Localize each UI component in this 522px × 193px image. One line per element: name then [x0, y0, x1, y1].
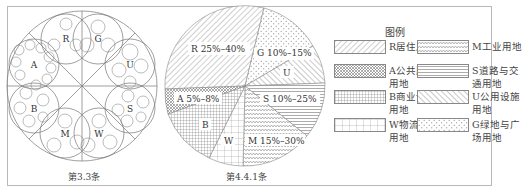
- sector-label-g: G: [94, 34, 101, 44]
- legend-item-s: S道路与交通用地: [417, 64, 522, 90]
- swatch-horizontal-icon: [417, 64, 469, 78]
- swatch-grid-coarse-icon: [334, 118, 386, 132]
- sector-label-w: W: [94, 129, 104, 139]
- legend-item-g: G绿地与广场用地: [417, 118, 522, 144]
- legend-item-u: U公用设施用地: [417, 90, 522, 116]
- sector-label-a: A: [30, 60, 38, 70]
- sector-label-b: B: [31, 104, 38, 114]
- legend-item-m: M工业用地: [417, 40, 522, 54]
- pie-label-b: B: [202, 120, 209, 130]
- left-caption: 第3.3条: [68, 170, 100, 183]
- swatch-grid-fine-icon: [334, 90, 386, 104]
- legend-label: S道路与交通用地: [472, 64, 522, 90]
- sector-label-u: U: [126, 60, 134, 70]
- pie-label-u: U: [283, 68, 291, 78]
- pie-label-m: M 15%–30%: [248, 136, 305, 146]
- swatch-zigzag-icon: [417, 40, 469, 54]
- swatch-diag-right-icon: [334, 40, 386, 54]
- pie-caption: 第4.4.1条: [226, 170, 267, 183]
- legend-title: 图例: [385, 24, 405, 39]
- swatch-crosshatch-icon: [334, 64, 386, 78]
- swatch-diag-left-icon: [417, 90, 469, 104]
- classification-diagram: R G U S W M B A: [7, 11, 157, 161]
- swatch-dots-icon: [417, 118, 469, 132]
- legend-label: M工业用地: [472, 40, 522, 53]
- pie-label-w: W: [224, 136, 234, 146]
- pie-label-a: A 5%–8%: [176, 94, 220, 104]
- legend-label: G绿地与广场用地: [472, 118, 522, 144]
- sector-label-r: R: [63, 34, 70, 44]
- pie-label-r: R 25%–40%: [191, 44, 246, 54]
- sector-label-s: S: [127, 104, 133, 114]
- sector-label-m: M: [60, 129, 69, 139]
- pie-label-s: S 10%–25%: [263, 94, 317, 104]
- pie-label-g: G 10%–15%: [257, 48, 312, 58]
- legend-label: U公用设施用地: [472, 90, 522, 116]
- land-use-pie: R 25%–40% G 10%–15% U S 10%–25% A 5%–8% …: [165, 6, 325, 166]
